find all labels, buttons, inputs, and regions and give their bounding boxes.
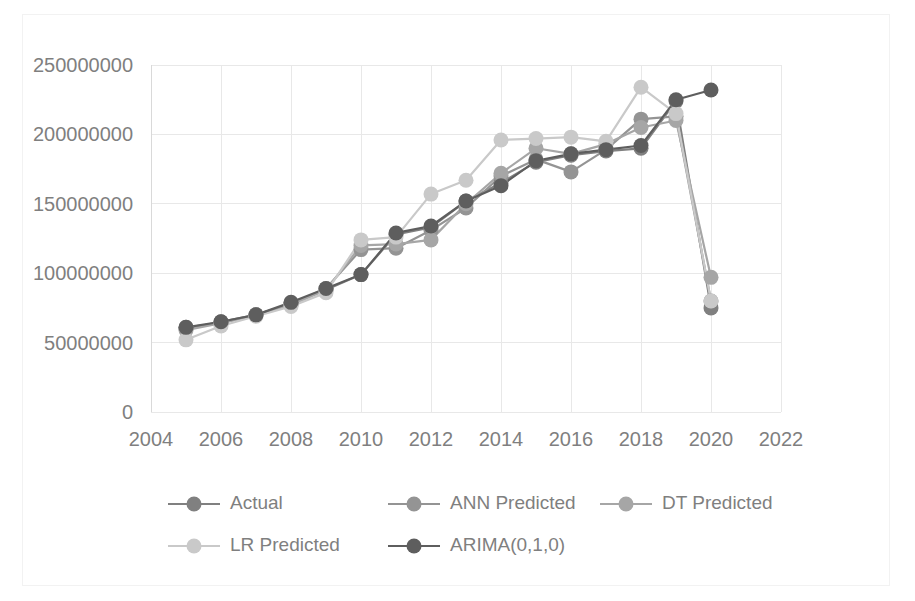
y-tick-label: 150000000	[33, 193, 133, 215]
y-tick-label: 0	[122, 401, 133, 423]
line-chart: 0500000001000000001500000002000000002500…	[0, 0, 915, 601]
legend-label: LR Predicted	[230, 534, 340, 555]
x-tick-label: 2004	[129, 428, 174, 450]
y-tick-label: 50000000	[44, 332, 133, 354]
x-tick-label: 2022	[759, 428, 804, 450]
data-point	[564, 130, 579, 145]
data-point	[354, 267, 369, 282]
data-point	[634, 120, 649, 135]
legend-swatch-dot	[187, 539, 202, 554]
series-line-actual	[186, 101, 711, 329]
legend-label: ARIMA(0,1,0)	[450, 534, 565, 555]
y-axis-tick-labels: 0500000001000000001500000002000000002500…	[33, 54, 133, 423]
data-point	[214, 314, 229, 329]
data-point	[249, 307, 264, 322]
data-point	[424, 219, 439, 234]
x-tick-label: 2016	[549, 428, 594, 450]
y-tick-label: 250000000	[33, 54, 133, 76]
series-lines	[186, 87, 711, 340]
data-point	[494, 132, 509, 147]
legend-swatch-dot	[187, 497, 202, 512]
chart-legend[interactable]: ActualANN PredictedDT PredictedLR Predic…	[168, 492, 773, 555]
data-point	[704, 82, 719, 97]
data-point	[704, 270, 719, 285]
x-tick-label: 2006	[199, 428, 244, 450]
data-point	[564, 164, 579, 179]
data-point	[319, 281, 334, 296]
x-tick-label: 2008	[269, 428, 314, 450]
legend-swatch-dot	[407, 539, 422, 554]
data-point	[529, 131, 544, 146]
legend-item-arima-0-1-0[interactable]: ARIMA(0,1,0)	[388, 534, 565, 555]
legend-swatch-dot	[407, 497, 422, 512]
data-point	[634, 138, 649, 153]
y-tick-label: 200000000	[33, 123, 133, 145]
data-point	[669, 106, 684, 121]
data-point	[459, 194, 474, 209]
x-tick-label: 2012	[409, 428, 454, 450]
data-point	[529, 153, 544, 168]
y-gridlines	[151, 65, 781, 412]
x-axis-tick-labels: 2004200620082010201220142016201820202022	[129, 428, 804, 450]
data-point	[704, 293, 719, 308]
data-point	[424, 232, 439, 247]
x-tick-label: 2020	[689, 428, 734, 450]
legend-swatch-dot	[619, 497, 634, 512]
legend-item-ann-predicted[interactable]: ANN Predicted	[388, 492, 576, 513]
legend-label: DT Predicted	[662, 492, 773, 513]
data-point	[389, 225, 404, 240]
legend-item-lr-predicted[interactable]: LR Predicted	[168, 534, 340, 555]
data-point	[424, 187, 439, 202]
legend-item-dt-predicted[interactable]: DT Predicted	[600, 492, 773, 513]
x-tick-label: 2014	[479, 428, 524, 450]
x-tick-label: 2010	[339, 428, 384, 450]
x-gridlines	[151, 65, 781, 412]
data-point	[284, 295, 299, 310]
legend-item-actual[interactable]: Actual	[168, 492, 283, 513]
legend-label: ANN Predicted	[450, 492, 576, 513]
data-point	[564, 146, 579, 161]
data-point	[459, 173, 474, 188]
data-point	[354, 232, 369, 247]
data-point	[494, 178, 509, 193]
data-point	[669, 92, 684, 107]
legend-label: Actual	[230, 492, 283, 513]
series-line-dt-predicted	[186, 121, 711, 331]
data-point	[179, 320, 194, 335]
y-tick-label: 100000000	[33, 262, 133, 284]
data-point	[634, 80, 649, 95]
data-point	[599, 142, 614, 157]
x-tick-label: 2018	[619, 428, 664, 450]
